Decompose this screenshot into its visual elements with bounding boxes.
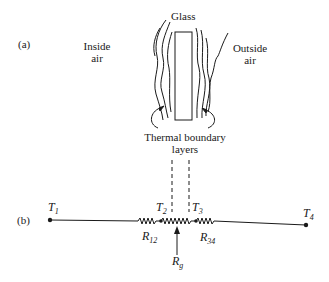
wire-right bbox=[214, 221, 306, 225]
part-b-label: (b) bbox=[17, 214, 30, 226]
part-a-label: (a) bbox=[18, 38, 30, 50]
glass-label: Glass bbox=[171, 10, 195, 22]
node-t3 bbox=[194, 219, 198, 223]
rg-arrowhead-icon bbox=[174, 226, 180, 234]
glass-pane bbox=[175, 32, 192, 120]
r12-label: R12 bbox=[142, 230, 157, 247]
r34-subscript: 34 bbox=[207, 237, 215, 246]
r34-label: R34 bbox=[200, 231, 215, 248]
thermal-boundary-label: Thermal boundary layers bbox=[135, 131, 235, 155]
node-t1 bbox=[48, 218, 52, 222]
t4-subscript: 4 bbox=[310, 213, 314, 222]
wire-left bbox=[50, 220, 138, 221]
t1-label: T1 bbox=[48, 201, 59, 218]
inside-air-line1: Inside bbox=[80, 40, 114, 52]
inside-air-label: Inside air bbox=[80, 40, 114, 64]
t3-subscript: 3 bbox=[199, 207, 203, 216]
rg-label: Rg bbox=[172, 255, 183, 272]
boundary-arrow-right bbox=[206, 110, 215, 128]
t2-symbol: T bbox=[156, 200, 163, 214]
resistor-r34 bbox=[196, 218, 214, 224]
t3-label: T3 bbox=[192, 201, 203, 218]
t1-symbol: T bbox=[48, 200, 55, 214]
thermal-boundary-line1: Thermal boundary bbox=[135, 131, 235, 143]
rg-subscript: g bbox=[179, 261, 183, 270]
t2-subscript: 2 bbox=[163, 207, 167, 216]
outside-air-label: Outside air bbox=[229, 42, 271, 66]
r12-subscript: 12 bbox=[149, 236, 157, 245]
outside-air-line2: air bbox=[229, 54, 271, 66]
t2-label: T2 bbox=[156, 201, 167, 218]
resistor-r12 bbox=[138, 218, 161, 224]
boundary-arrow-left bbox=[151, 108, 160, 128]
outside-boundary-line bbox=[208, 33, 228, 112]
inside-boundary-line bbox=[161, 22, 170, 118]
t4-label: T4 bbox=[303, 207, 314, 224]
t3-symbol: T bbox=[192, 200, 199, 214]
t4-symbol: T bbox=[303, 206, 310, 220]
inside-boundary-line bbox=[168, 32, 172, 112]
outside-boundary-line bbox=[201, 30, 205, 118]
outside-boundary-line bbox=[196, 28, 200, 118]
diagram-canvas: (a) Glass Inside air Outside air Thermal… bbox=[0, 0, 329, 282]
inside-air-line2: air bbox=[80, 52, 114, 64]
outside-air-line1: Outside bbox=[229, 42, 271, 54]
node-t2 bbox=[159, 219, 163, 223]
t1-subscript: 1 bbox=[55, 207, 59, 216]
resistor-rg bbox=[161, 218, 196, 224]
thermal-boundary-line2: layers bbox=[135, 143, 235, 155]
